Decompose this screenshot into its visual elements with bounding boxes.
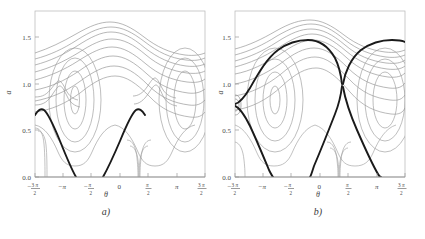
panel-a-caption: a) xyxy=(0,206,212,217)
x-tick-numerator: 3 xyxy=(232,182,235,188)
panel-a-plot: 0.0 0.5 1.0 1.5 − 3 π xyxy=(0,0,212,239)
x-tick-numerator: 3 xyxy=(398,182,401,188)
panel-a: 0.0 0.5 1.0 1.5 − 3 π xyxy=(0,0,212,239)
x-tick-pi: π xyxy=(346,182,349,188)
y-tick-label: 0.5 xyxy=(222,127,231,135)
x-tick-pi: π xyxy=(146,182,149,188)
y-axis-label: a xyxy=(4,91,13,95)
x-tick-pi: π xyxy=(289,182,292,188)
x-tick-numerator: 3 xyxy=(32,182,35,188)
y-tick-label: 1.5 xyxy=(22,34,31,42)
x-tick-pi: π xyxy=(402,182,405,188)
x-axis-label: θ xyxy=(212,190,424,199)
y-tick-label: 0.0 xyxy=(22,174,31,182)
y-axis-label: a xyxy=(216,91,225,95)
y-tick-label: 0.0 xyxy=(222,174,231,182)
x-tick-numerator: 3 xyxy=(198,182,201,188)
y-tick-label: 0.5 xyxy=(22,127,31,135)
x-tick-pi: π xyxy=(36,182,39,188)
y-tick-label: 1.0 xyxy=(222,81,231,89)
panel-b-caption: b) xyxy=(212,206,424,217)
plot-frame xyxy=(35,11,205,177)
phase-portrait-figure: 0.0 0.5 1.0 1.5 − 3 π xyxy=(0,0,425,239)
y-tick-label: 1.0 xyxy=(22,81,31,89)
x-tick-pi: π xyxy=(202,182,205,188)
x-tick-pi: π xyxy=(236,182,239,188)
y-tick-label: 1.5 xyxy=(222,34,231,42)
panel-b-plot: 0.0 0.5 1.0 1.5 − 3 π 2 − xyxy=(212,0,425,239)
panel-b: 0.0 0.5 1.0 1.5 − 3 π 2 − xyxy=(212,0,424,239)
x-axis-label: θ xyxy=(0,190,212,199)
x-tick-pi: π xyxy=(89,182,92,188)
